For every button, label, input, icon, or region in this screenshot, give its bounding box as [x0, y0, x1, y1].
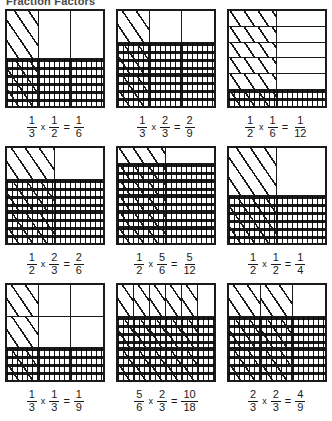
product-denominator: 4 — [295, 265, 305, 277]
model-cell-overlap — [166, 317, 182, 349]
model-cell-overlap — [150, 348, 166, 380]
factor-2: 23 — [160, 115, 170, 140]
factor-2-numerator: 2 — [160, 115, 170, 128]
equation: 13x13=19 — [26, 388, 85, 414]
model-cell-dotted — [293, 348, 325, 380]
model-cell-dotted — [39, 348, 71, 380]
factor-2: 56 — [157, 252, 167, 277]
product: 1018 — [181, 389, 197, 414]
factor-2: 23 — [49, 252, 59, 277]
model-cell-overlap — [134, 348, 150, 380]
factor-1-numerator: 1 — [137, 115, 147, 128]
model-cell — [39, 317, 71, 349]
multiply-symbol: x — [259, 122, 264, 132]
area-model — [116, 283, 216, 382]
problem-7: 13x13=19 — [0, 283, 111, 420]
factor-1-numerator: 1 — [134, 252, 144, 265]
model-cell — [198, 285, 214, 317]
area-model — [227, 9, 327, 108]
product-numerator: 1 — [295, 115, 305, 128]
factor-1: 12 — [248, 252, 258, 277]
model-cell-dotted — [198, 317, 214, 349]
model-cell-overlap — [150, 317, 166, 349]
model-cell — [293, 285, 325, 317]
area-model — [5, 283, 105, 382]
multiply-symbol: x — [148, 259, 153, 269]
equation: 23x23=49 — [247, 388, 306, 414]
product-numerator: 5 — [185, 252, 195, 265]
model-cell-overlap — [229, 196, 277, 244]
factor-2-numerator: 2 — [271, 389, 281, 402]
factor-1-numerator: 1 — [27, 252, 37, 265]
multiply-symbol: x — [41, 122, 46, 132]
factor-1: 56 — [134, 389, 144, 414]
equals-symbol: = — [282, 121, 288, 133]
model-cell-hatched — [7, 148, 55, 180]
factor-1-denominator: 2 — [27, 265, 37, 277]
factor-1-denominator: 2 — [248, 265, 258, 277]
problem-4: 12x23=26 — [0, 146, 111, 283]
model-cell-overlap — [118, 195, 166, 211]
product-numerator: 1 — [74, 115, 84, 128]
model-cell — [277, 27, 325, 43]
model-cell-dotted — [277, 90, 325, 106]
multiply-symbol: x — [41, 396, 46, 406]
model-cell-hatched — [182, 285, 198, 317]
factor-1: 12 — [245, 115, 255, 140]
factor-2-denominator: 2 — [49, 128, 59, 140]
factor-1-denominator: 2 — [134, 265, 144, 277]
model-cell — [277, 148, 325, 196]
factor-2-denominator: 3 — [157, 402, 167, 414]
factor-2-numerator: 2 — [49, 252, 59, 265]
product-denominator: 12 — [292, 128, 308, 140]
model-cell-overlap — [118, 317, 134, 349]
model-cell-overlap — [118, 43, 150, 75]
model-cell-dotted — [39, 59, 71, 107]
equals-symbol: = — [285, 395, 291, 407]
area-model — [5, 146, 105, 245]
problem-3: 12x16=112 — [221, 9, 332, 146]
model-cell-overlap — [229, 317, 261, 349]
model-cell-hatched — [118, 11, 150, 43]
factor-1: 13 — [27, 389, 37, 414]
factor-1-denominator: 3 — [27, 128, 37, 140]
product-denominator: 18 — [181, 402, 197, 414]
model-cell-overlap — [7, 348, 39, 380]
model-cell-hatched — [118, 148, 166, 164]
factor-2: 16 — [268, 115, 278, 140]
model-cell-overlap — [182, 348, 198, 380]
product-denominator: 6 — [74, 128, 84, 140]
model-cell-dotted — [166, 227, 214, 243]
model-cell-overlap — [118, 227, 166, 243]
model-cell-overlap — [261, 317, 293, 349]
product-denominator: 12 — [181, 265, 197, 277]
model-cell — [182, 11, 214, 43]
product-numerator: 10 — [181, 389, 197, 402]
product-numerator: 2 — [74, 252, 84, 265]
multiply-symbol: x — [151, 122, 156, 132]
equation: 13x12=16 — [26, 114, 85, 140]
model-cell-hatched — [150, 285, 166, 317]
factor-2-numerator: 1 — [268, 115, 278, 128]
product: 26 — [74, 252, 84, 277]
model-cell-hatched — [229, 58, 277, 74]
model-cell-hatched — [118, 285, 134, 317]
model-cell-hatched — [229, 285, 261, 317]
problem-9: 23x23=49 — [221, 283, 332, 420]
model-cell-hatched — [229, 74, 277, 90]
model-cell-overlap — [182, 317, 198, 349]
multiply-symbol: x — [262, 259, 267, 269]
model-cell — [166, 148, 214, 164]
multiply-symbol: x — [148, 396, 153, 406]
model-cell — [71, 11, 103, 59]
equation: 12x23=26 — [26, 251, 85, 277]
product: 19 — [74, 389, 84, 414]
multiply-symbol: x — [41, 259, 46, 269]
model-cell-hatched — [229, 148, 277, 196]
model-cell-dotted — [198, 348, 214, 380]
area-model — [116, 146, 216, 245]
model-cell-hatched — [229, 43, 277, 59]
model-cell-dotted — [55, 180, 103, 212]
model-cell-hatched — [134, 285, 150, 317]
model-cell-overlap — [118, 348, 134, 380]
